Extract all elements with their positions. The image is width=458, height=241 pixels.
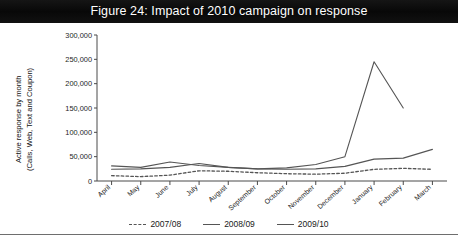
figure-title: Figure 24: Impact of 2010 campaign on re… xyxy=(0,0,458,23)
legend-item: 2008/09 xyxy=(203,219,255,229)
y-tick-label: 250,000 xyxy=(65,55,92,64)
series-line-2008-09 xyxy=(112,149,433,169)
x-tick-label: April xyxy=(96,183,112,199)
bottom-divider xyxy=(0,234,458,235)
x-tick-label: February xyxy=(377,183,404,208)
x-tick-label: August xyxy=(207,184,229,205)
legend-item: 2009/10 xyxy=(277,219,329,229)
x-tick-label: July xyxy=(185,183,200,198)
x-tick-label: June xyxy=(154,183,170,198)
x-tick-label: May xyxy=(126,183,142,198)
legend-swatch-solid-icon xyxy=(277,224,294,225)
x-tick-label: September xyxy=(227,183,258,212)
x-axis-tick-marks xyxy=(112,181,433,185)
y-tick-label: 0 xyxy=(88,177,92,186)
x-tick-label: November xyxy=(287,183,316,210)
legend-label: 2007/08 xyxy=(150,219,181,229)
chart-legend: 2007/08 2008/09 2009/10 xyxy=(0,216,458,232)
y-tick-label: 50,000 xyxy=(69,152,92,161)
chart-plot-area: Active response by month (Calls, Web, Te… xyxy=(0,23,458,223)
figure-title-band: Figure 24: Impact of 2010 campaign on re… xyxy=(0,0,458,23)
x-axis-tick-labels: AprilMayJuneJulyAugustSeptemberOctoberNo… xyxy=(96,183,432,212)
data-series-group xyxy=(112,62,433,177)
x-tick-label: March xyxy=(413,183,432,201)
legend-label: 2008/09 xyxy=(224,219,255,229)
x-tick-label: December xyxy=(316,183,345,210)
legend-swatch-solid-icon xyxy=(203,224,220,225)
series-line-2009-10 xyxy=(112,62,404,170)
legend-label: 2009/10 xyxy=(298,219,329,229)
y-tick-label: 150,000 xyxy=(65,104,92,113)
y-axis-title-line1: Active response by month xyxy=(14,76,23,163)
y-tick-label: 300,000 xyxy=(65,31,92,40)
y-tick-label: 100,000 xyxy=(65,128,92,137)
legend-swatch-dashed-icon xyxy=(129,224,146,225)
figure-container: Figure 24: Impact of 2010 campaign on re… xyxy=(0,0,458,241)
legend-item: 2007/08 xyxy=(129,219,181,229)
y-axis-tick-labels: 050,000100,000150,000200,000250,000300,0… xyxy=(65,31,92,186)
y-axis-title-line2: (Calls, Web, Text and Coupon) xyxy=(25,67,34,171)
x-tick-label: January xyxy=(351,183,375,206)
line-chart-svg: Active response by month (Calls, Web, Te… xyxy=(0,23,458,223)
y-axis-title: Active response by month (Calls, Web, Te… xyxy=(14,67,34,171)
x-tick-label: October xyxy=(263,183,287,205)
y-tick-label: 200,000 xyxy=(65,79,92,88)
